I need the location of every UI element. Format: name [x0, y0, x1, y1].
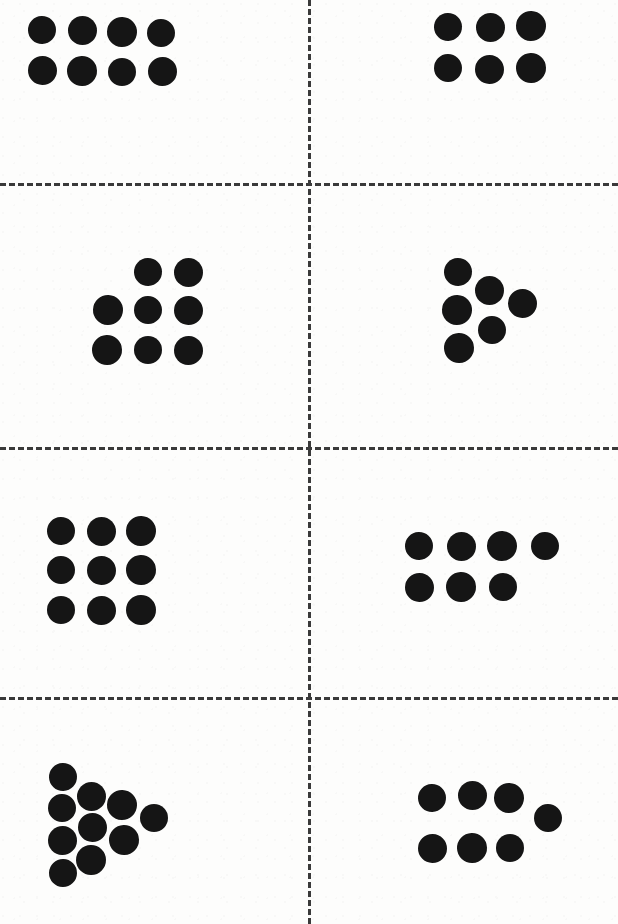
dot — [441, 294, 472, 325]
dot — [49, 763, 78, 792]
dot — [47, 825, 77, 855]
dot — [515, 52, 546, 83]
dot — [418, 784, 447, 813]
dot — [108, 824, 139, 855]
dot — [443, 332, 474, 363]
dot — [27, 55, 57, 85]
dot — [489, 573, 517, 601]
dot — [496, 834, 524, 862]
dot — [493, 782, 524, 813]
dot — [174, 258, 203, 287]
dot — [475, 276, 504, 305]
dot — [134, 258, 163, 287]
dot — [173, 335, 203, 365]
dot — [134, 296, 162, 324]
dot — [125, 554, 156, 585]
dot — [474, 54, 504, 84]
worksheet-sheet — [0, 0, 618, 924]
dot — [445, 571, 476, 602]
dot — [531, 532, 559, 560]
dot — [434, 54, 462, 82]
dot — [125, 515, 156, 546]
dot — [68, 16, 97, 45]
dot — [106, 16, 137, 47]
dot — [404, 572, 434, 602]
dot — [507, 288, 537, 318]
dot — [458, 781, 487, 810]
dot — [47, 596, 75, 624]
dot — [476, 13, 505, 42]
dot — [126, 595, 157, 626]
dot — [77, 782, 106, 811]
dot — [447, 532, 476, 561]
dot — [66, 55, 97, 86]
dot — [456, 832, 487, 863]
dot — [486, 530, 517, 561]
dot — [92, 294, 123, 325]
dot — [86, 595, 116, 625]
dot — [417, 833, 447, 863]
dot — [108, 58, 136, 86]
dot — [106, 789, 137, 820]
dot — [86, 555, 116, 585]
dot — [147, 19, 175, 47]
dot — [515, 10, 546, 41]
dot — [47, 556, 75, 584]
dot — [173, 295, 203, 325]
dot — [444, 258, 473, 287]
dot — [140, 804, 168, 832]
dot — [534, 804, 562, 832]
dot — [47, 517, 76, 546]
dot — [76, 845, 107, 876]
divider-vertical-1 — [308, 0, 311, 924]
dot — [147, 56, 177, 86]
dot — [48, 794, 76, 822]
dot — [49, 859, 77, 887]
dot — [434, 13, 463, 42]
dot — [134, 336, 162, 364]
dot — [77, 812, 107, 842]
dot — [478, 316, 506, 344]
dot — [28, 16, 57, 45]
dot — [405, 532, 434, 561]
dot — [87, 517, 116, 546]
dot — [91, 334, 122, 365]
